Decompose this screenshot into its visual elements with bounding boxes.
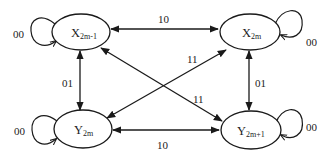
node-x2m-1: X2m-1	[52, 14, 110, 50]
node-label: X	[242, 26, 251, 40]
state-diagram: X2m-1 X2m Y2m Y2m+1 10 10 01 01 11 11 00…	[0, 0, 329, 158]
edge-label-x2m-y2m: 11	[187, 53, 198, 65]
node-y2m: Y2m	[54, 110, 112, 148]
node-x2m: X2m	[220, 14, 280, 50]
node-subscript: 2m+1	[246, 130, 265, 139]
edges	[80, 29, 249, 130]
self-loop-label-y2m: 00	[14, 125, 26, 137]
node-subscript: 2m-1	[80, 32, 97, 41]
edge-label-y2m-y2m+1: 10	[157, 139, 169, 151]
edge-label-x2m-1-y2m: 01	[62, 77, 73, 89]
node-y2m+1: Y2m+1	[221, 111, 281, 149]
edge-x2m-1-y2m+1	[101, 48, 222, 121]
edge-label-x2m-1-x2m: 10	[158, 13, 170, 25]
self-loop-label-x2m: 00	[306, 36, 318, 48]
edge-label-x2m-1-y2m+1: 11	[193, 93, 204, 105]
node-label: Y	[74, 123, 83, 137]
self-loop-label-y2m+1: 00	[306, 121, 318, 133]
node-label: Y	[237, 124, 246, 138]
node-subscript: 2m	[83, 129, 94, 138]
edge-x2m-y2m	[107, 50, 226, 118]
self-loop-label-x2m-1: 00	[13, 28, 25, 40]
node-label: X	[71, 26, 80, 40]
node-subscript: 2m	[251, 32, 262, 41]
edge-label-x2m-y2m+1: 01	[255, 77, 266, 89]
self-loop-y2m	[32, 116, 57, 144]
